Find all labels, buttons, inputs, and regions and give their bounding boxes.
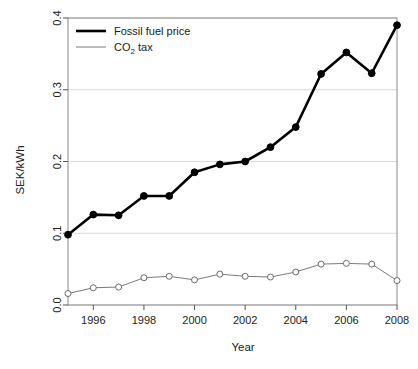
data-point-marker	[242, 273, 248, 279]
data-point-marker	[292, 124, 299, 131]
data-point-marker	[267, 144, 274, 151]
y-tick-label: 0.0	[51, 297, 63, 312]
data-point-marker	[318, 261, 324, 267]
data-point-marker	[65, 291, 71, 297]
data-point-marker	[90, 211, 97, 218]
x-tick-label: 2002	[233, 314, 257, 326]
data-point-marker	[216, 161, 223, 168]
data-point-marker	[65, 231, 72, 238]
y-tick-label: 0.1	[51, 226, 63, 241]
data-point-marker	[394, 278, 400, 284]
line-chart: 0.00.10.20.30.4 199619982000200220042006…	[0, 0, 418, 369]
data-point-marker	[242, 158, 249, 165]
data-point-marker	[116, 284, 122, 290]
data-point-marker	[90, 285, 96, 291]
x-tick-label: 1998	[132, 314, 156, 326]
y-tick-label: 0.2	[51, 154, 63, 169]
data-point-marker	[115, 212, 122, 219]
data-point-marker	[141, 193, 148, 200]
y-tick-label: 0.4	[51, 10, 63, 25]
x-tick-label: 2006	[334, 314, 358, 326]
data-point-marker	[141, 275, 147, 281]
data-point-marker	[166, 273, 172, 279]
data-point-marker	[191, 169, 198, 176]
x-tick-label: 1996	[81, 314, 105, 326]
data-point-marker	[368, 70, 375, 77]
data-point-marker	[166, 193, 173, 200]
data-point-marker	[217, 271, 223, 277]
data-point-marker	[394, 22, 401, 29]
x-tick-label: 2004	[284, 314, 308, 326]
x-tick-label: 2008	[385, 314, 409, 326]
x-tick-label: 2000	[182, 314, 206, 326]
y-tick-label: 0.3	[51, 82, 63, 97]
data-point-marker	[369, 261, 375, 267]
chart-figure: 0.00.10.20.30.4 199619982000200220042006…	[0, 0, 418, 369]
data-point-marker	[192, 277, 198, 283]
data-point-marker	[343, 49, 350, 56]
x-axis-title: Year	[231, 341, 254, 353]
data-point-marker	[293, 269, 299, 275]
data-point-marker	[267, 274, 273, 280]
data-point-marker	[318, 71, 325, 78]
y-axis-title: SEK/kWh	[14, 145, 26, 194]
data-point-marker	[343, 260, 349, 266]
legend-label-fossil-fuel-price: Fossil fuel price	[114, 25, 190, 37]
